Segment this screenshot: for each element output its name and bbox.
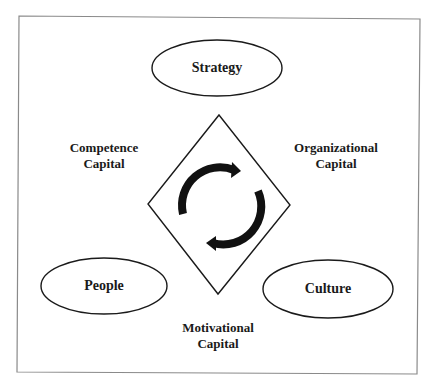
motivational-capital-label: Motivational Capital	[182, 320, 254, 352]
competence-capital-line1: Competence	[70, 140, 139, 156]
center-diamond	[148, 115, 290, 294]
motivational-capital-line1: Motivational	[182, 320, 254, 336]
strategy-label: Strategy	[192, 60, 243, 76]
competence-capital-label: Competence Capital	[70, 140, 139, 172]
competence-capital-line2: Capital	[70, 156, 139, 172]
culture-label: Culture	[305, 281, 351, 297]
organizational-capital-line2: Capital	[294, 156, 378, 172]
organizational-capital-label: Organizational Capital	[294, 140, 378, 172]
motivational-capital-line2: Capital	[182, 336, 254, 352]
organizational-capital-line1: Organizational	[294, 140, 378, 156]
people-label: People	[84, 278, 124, 294]
